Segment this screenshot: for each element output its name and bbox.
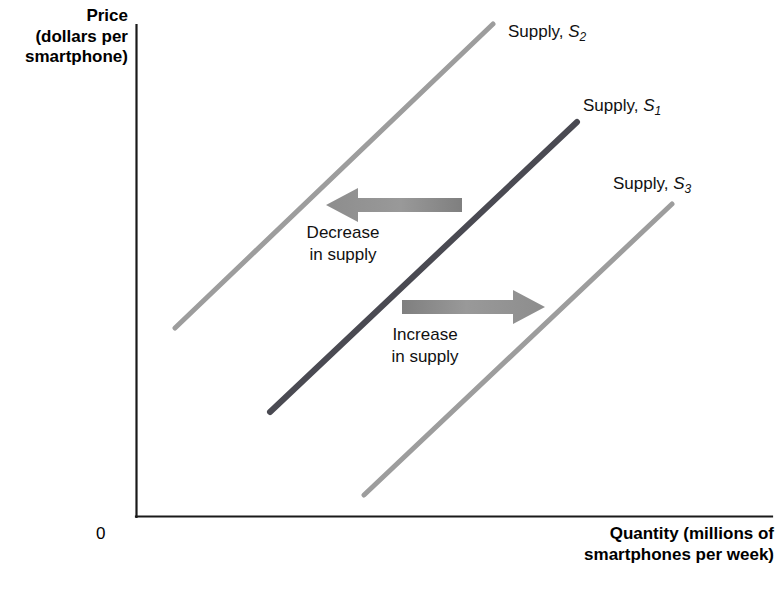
curve-label-s1-prefix: Supply,	[583, 96, 643, 115]
origin-label: 0	[96, 524, 105, 544]
curve-label-s2-subscript: 2	[580, 30, 587, 44]
supply-shift-diagram: Price (dollars per smartphone) Quantity …	[0, 0, 780, 591]
decrease-supply-arrow-icon	[326, 188, 462, 222]
curve-label-s3: Supply, S3	[613, 174, 691, 194]
curve-label-s2-symbol: S	[568, 22, 579, 41]
curve-label-s3-symbol: S	[673, 174, 684, 193]
curve-label-s1-symbol: S	[643, 96, 654, 115]
decrease-supply-label: Decrease in supply	[258, 222, 428, 266]
supply-curve-s2	[175, 24, 493, 328]
increase-supply-arrow-icon	[402, 290, 545, 324]
curve-label-s2: Supply, S2	[508, 22, 586, 42]
curve-label-s3-subscript: 3	[685, 182, 692, 196]
curve-label-s1-subscript: 1	[655, 104, 662, 118]
supply-curve-s1	[270, 122, 577, 412]
curve-label-s2-prefix: Supply,	[508, 22, 568, 41]
y-axis-title: Price (dollars per smartphone)	[0, 6, 128, 68]
curve-label-s3-prefix: Supply,	[613, 174, 673, 193]
increase-supply-label: Increase in supply	[340, 324, 510, 368]
x-axis-title: Quantity (millions of smartphones per we…	[440, 524, 774, 565]
curve-label-s1: Supply, S1	[583, 96, 661, 116]
plot-area	[0, 0, 780, 591]
